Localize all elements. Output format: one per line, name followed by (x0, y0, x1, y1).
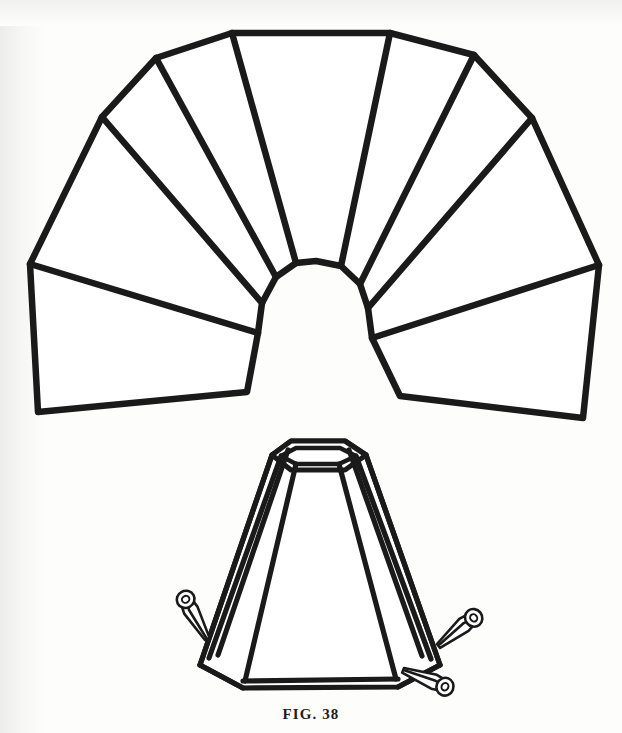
shade-bottom-rim (243, 679, 398, 681)
clip-right-upper (433, 606, 486, 653)
clip-left (174, 588, 215, 644)
figure-illustration (0, 0, 622, 733)
figure-caption: FIG. 38 (0, 706, 622, 723)
fan-outer-boundary (30, 33, 599, 418)
flat-fan-pattern (30, 33, 599, 418)
page-canvas: FIG. 38 (0, 0, 622, 733)
assembled-shade (200, 441, 440, 688)
shade-top-rim-inner (281, 448, 356, 464)
